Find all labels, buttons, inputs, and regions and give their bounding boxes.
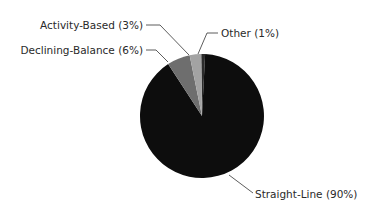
leader-straight-line bbox=[229, 175, 253, 193]
leader-activity-based bbox=[146, 25, 189, 55]
label-activity-based: Activity-Based (3%) bbox=[40, 19, 143, 31]
label-declining-balance: Declining-Balance (6%) bbox=[20, 44, 143, 56]
label-straight-line: Straight-Line (90%) bbox=[255, 188, 357, 200]
pie-chart: Activity-Based (3%) Declining-Balance (6… bbox=[0, 0, 371, 215]
pie-slices bbox=[140, 54, 264, 178]
label-other: Other (1%) bbox=[221, 27, 279, 39]
leader-declining-balance bbox=[146, 50, 168, 62]
leader-other bbox=[198, 33, 218, 54]
